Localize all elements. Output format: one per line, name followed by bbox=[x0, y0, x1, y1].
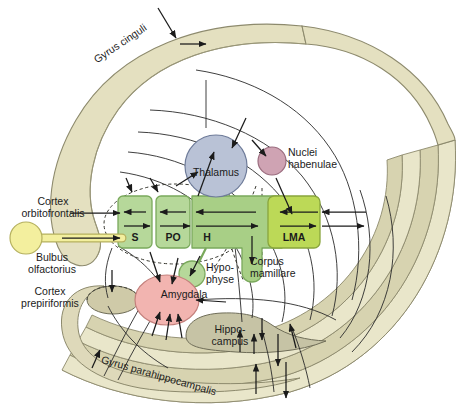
bulbus-olfactorius-shape bbox=[10, 222, 42, 254]
gyrus-cinguli-right-arc bbox=[302, 26, 455, 145]
thalamus-shape bbox=[185, 135, 247, 197]
amygdala-shape bbox=[135, 275, 199, 325]
arrow-to-habenulae bbox=[252, 140, 266, 156]
diagram-canvas: Gyrus cinguli Gyrus parahippocampalis Co… bbox=[0, 0, 467, 413]
limbic-diagram bbox=[0, 0, 467, 413]
box-po-shape bbox=[156, 196, 190, 248]
arrow-into-s bbox=[126, 178, 132, 192]
arrow-top-in bbox=[158, 8, 176, 38]
arrow-to-amygdala-right bbox=[196, 300, 226, 302]
box-lma-shape bbox=[268, 196, 320, 248]
arrow-to-thalamus-right bbox=[232, 118, 246, 148]
